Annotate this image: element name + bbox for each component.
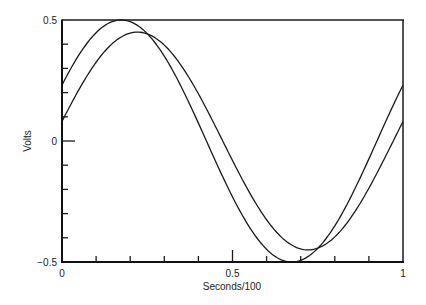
x-axis-title: Seconds/100	[203, 281, 262, 292]
y-axis-title: Volts	[22, 130, 33, 152]
x-axis-ticks	[96, 250, 369, 262]
y-tick-label: 0.5	[43, 15, 57, 26]
x-axis-tick-labels: 00.51	[59, 268, 406, 279]
x-tick-label: 0	[59, 268, 65, 279]
data-series	[62, 20, 403, 262]
y-axis-tick-labels: 0.50−0.5	[37, 15, 57, 268]
series-line-2	[62, 32, 403, 250]
y-tick-label: 0	[51, 136, 57, 147]
y-tick-label: −0.5	[37, 257, 57, 268]
series-line-1	[62, 20, 403, 262]
chart: 0.50−0.5 00.51 Seconds/100 Volts	[0, 0, 426, 305]
plot-frame	[61, 20, 404, 264]
x-tick-label: 1	[400, 268, 406, 279]
x-tick-label: 0.5	[226, 268, 240, 279]
